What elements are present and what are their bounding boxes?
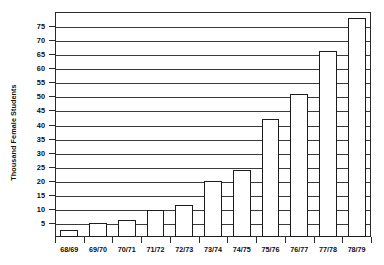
x-tick-mark: [84, 237, 85, 243]
bar-slot: [227, 12, 256, 237]
bar-78-79[interactable]: [348, 18, 366, 237]
x-tick-label-70-71: 70/71: [118, 245, 136, 254]
bar-75-76[interactable]: [262, 119, 280, 237]
bar-69-70[interactable]: [89, 223, 107, 237]
x-tick-label-76-77: 76/77: [290, 245, 308, 254]
y-tick-label-10: 10: [37, 204, 45, 213]
bar-slot: [285, 12, 314, 237]
bar-68-69[interactable]: [60, 230, 78, 237]
x-tick-mark: [227, 237, 228, 243]
bar-76-77[interactable]: [290, 94, 308, 237]
x-tick-mark: [112, 237, 113, 243]
bar-74-75[interactable]: [233, 170, 251, 238]
bar-73-74[interactable]: [204, 181, 222, 237]
bar-slot: [141, 12, 170, 237]
x-tick-mark: [170, 237, 171, 243]
x-tick-mark: [285, 237, 286, 243]
bar-slot: [170, 12, 199, 237]
bar-slot: [112, 12, 141, 237]
x-tick-label-68-69: 68/69: [60, 245, 78, 254]
bar-slot: [199, 12, 228, 237]
y-tick-label-55: 55: [37, 78, 45, 87]
x-tick-mark: [314, 237, 315, 243]
x-tick-mark: [141, 237, 142, 243]
bar-slot: [84, 12, 113, 237]
x-axis-ticks: 68/6969/7070/7171/7272/7373/7474/7575/76…: [55, 237, 371, 265]
bar-slot: [55, 12, 84, 237]
bar-slot: [314, 12, 343, 237]
x-tick-label-78-79: 78/79: [348, 245, 366, 254]
y-tick-label-35: 35: [37, 134, 45, 143]
bar-72-73[interactable]: [175, 205, 193, 237]
x-tick-label-72-73: 72/73: [175, 245, 193, 254]
x-tick-label-75-76: 75/76: [261, 245, 279, 254]
bar-slot: [342, 12, 371, 237]
y-tick-label-15: 15: [37, 190, 45, 199]
x-tick-mark: [256, 237, 257, 243]
y-tick-label-40: 40: [37, 120, 45, 129]
y-axis-ticks: 51015202530354045505560657075: [0, 12, 55, 237]
x-tick-label-74-75: 74/75: [233, 245, 251, 254]
y-tick-label-65: 65: [37, 50, 45, 59]
x-tick-mark: [199, 237, 200, 243]
x-tick-label-69-70: 69/70: [89, 245, 107, 254]
y-tick-label-50: 50: [37, 92, 45, 101]
bar-chart: Thousand Female Students 510152025303540…: [0, 0, 384, 265]
bar-series: [55, 12, 371, 237]
y-tick-label-25: 25: [37, 162, 45, 171]
y-tick-label-70: 70: [37, 36, 45, 45]
x-tick-mark: [342, 237, 343, 243]
y-tick-label-30: 30: [37, 148, 45, 157]
y-tick-label-75: 75: [37, 22, 45, 31]
y-tick-label-5: 5: [41, 218, 45, 227]
y-tick-label-45: 45: [37, 106, 45, 115]
bar-70-71[interactable]: [118, 220, 136, 237]
bar-71-72[interactable]: [147, 210, 165, 237]
bar-77-78[interactable]: [319, 51, 337, 237]
y-tick-label-20: 20: [37, 176, 45, 185]
x-tick-label-77-78: 77/78: [319, 245, 337, 254]
x-tick-mark: [55, 237, 56, 243]
y-tick-label-60: 60: [37, 64, 45, 73]
bar-slot: [256, 12, 285, 237]
x-tick-label-73-74: 73/74: [204, 245, 222, 254]
x-tick-mark: [371, 237, 372, 243]
x-tick-label-71-72: 71/72: [147, 245, 165, 254]
